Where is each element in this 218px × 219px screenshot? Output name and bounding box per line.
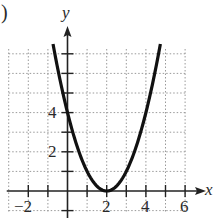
- x-axis-label: x: [205, 181, 213, 198]
- x-tick-label-4: 4: [141, 198, 150, 215]
- x-tick-label-neg2: −2: [14, 198, 32, 215]
- y-axis-label: y: [62, 4, 70, 21]
- y-tick-label-4: 4: [48, 104, 57, 121]
- x-tick-label-2: 2: [102, 198, 111, 215]
- y-tick-label-2: 2: [48, 143, 57, 160]
- x-tick-label-6: 6: [180, 198, 189, 215]
- parabola-plot: [0, 0, 218, 219]
- axes: [7, 26, 206, 218]
